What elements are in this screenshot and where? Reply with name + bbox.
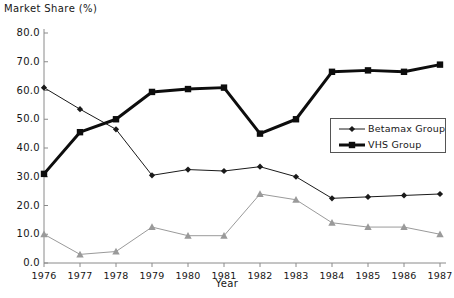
legend-marker-diamond-icon	[339, 124, 365, 134]
data-point-square	[329, 69, 335, 75]
chart-legend: Betamax GroupVHS Group	[330, 118, 446, 153]
legend-item-vhs-group[interactable]: VHS Group	[339, 139, 421, 150]
data-point-diamond	[349, 125, 355, 131]
legend-marker-square-icon	[339, 140, 365, 150]
data-point-diamond	[437, 191, 443, 197]
data-point-diamond	[77, 106, 83, 112]
data-point-square	[365, 67, 371, 73]
y-axis-tick-label: 80.0	[0, 27, 40, 38]
data-point-diamond	[329, 195, 335, 201]
data-point-square	[401, 69, 407, 75]
series-line	[44, 194, 440, 254]
y-axis-tick-label: 0.0	[0, 257, 40, 268]
data-point-diamond	[365, 194, 371, 200]
data-point-diamond	[257, 164, 263, 170]
data-point-square	[293, 116, 299, 122]
data-point-diamond	[293, 174, 299, 180]
y-axis-tick-label: 10.0	[0, 228, 40, 239]
data-point-square	[41, 171, 47, 177]
data-point-diamond	[401, 192, 407, 198]
data-point-triangle	[256, 190, 263, 197]
data-point-diamond	[41, 85, 47, 91]
data-point-square	[221, 84, 227, 90]
data-point-diamond	[185, 166, 191, 172]
legend-item-betamax-group[interactable]: Betamax Group	[339, 123, 445, 134]
legend-label: Betamax Group	[368, 123, 445, 134]
y-axis-tick-label: 40.0	[0, 142, 40, 153]
data-point-triangle	[112, 248, 119, 255]
data-point-square	[349, 141, 355, 147]
series-unlabeled	[40, 190, 443, 257]
data-point-diamond	[221, 168, 227, 174]
y-axis-tick-label: 70.0	[0, 56, 40, 67]
data-point-square	[77, 129, 83, 135]
market-share-line-chart: Market Share (%) 0.010.020.030.040.050.0…	[0, 0, 454, 298]
data-point-square	[437, 61, 443, 67]
data-point-square	[149, 89, 155, 95]
legend-label: VHS Group	[368, 139, 421, 150]
data-point-square	[113, 116, 119, 122]
x-axis-title: Year	[0, 278, 454, 289]
y-axis-tick-label: 20.0	[0, 200, 40, 211]
data-point-square	[257, 130, 263, 136]
data-point-triangle	[328, 219, 335, 226]
y-axis-tick-label: 60.0	[0, 85, 40, 96]
y-axis-tick-label: 50.0	[0, 113, 40, 124]
y-axis-tick-label: 30.0	[0, 171, 40, 182]
data-point-triangle	[148, 223, 155, 230]
data-point-square	[185, 86, 191, 92]
